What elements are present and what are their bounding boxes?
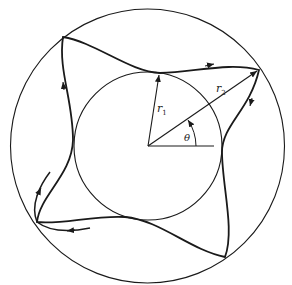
orbit-path: [37, 37, 259, 257]
theta-label: θ: [184, 132, 190, 143]
r2-label: r2: [216, 82, 226, 97]
r1-label: r1: [157, 102, 167, 117]
outer-circle: [11, 9, 285, 283]
direction-arrow-right: [250, 98, 252, 106]
orbit-diagram: r1 r2 θ: [0, 0, 292, 285]
direction-arrow-left: [63, 82, 64, 90]
direction-arrow-top: [205, 64, 214, 66]
